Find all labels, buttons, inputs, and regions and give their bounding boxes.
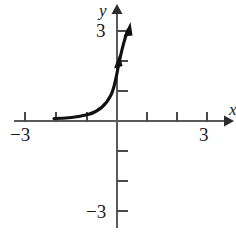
graph-figure: −3 3 3 −3 y x xyxy=(0,0,236,235)
y-axis-label: y xyxy=(99,2,107,19)
coordinate-plane-svg xyxy=(0,0,236,235)
x-axis-tick-label-negative: −3 xyxy=(10,125,30,144)
y-axis-arrowhead-icon xyxy=(112,4,123,14)
curve-upper-arrowhead-icon xyxy=(124,22,133,37)
x-axis-label: x xyxy=(229,101,236,118)
x-axis-tick-label-positive: 3 xyxy=(199,125,209,144)
y-axis-tick-label-positive: 3 xyxy=(96,21,106,40)
y-axis-tick-label-negative: −3 xyxy=(86,202,106,221)
